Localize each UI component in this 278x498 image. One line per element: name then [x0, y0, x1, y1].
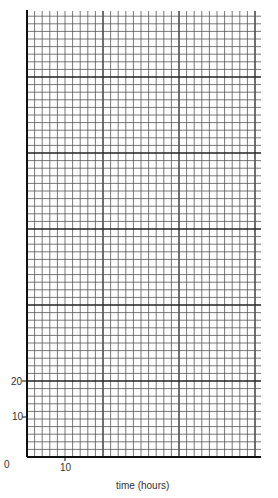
origin-label: 0 — [4, 459, 10, 470]
x-axis-title: time (hours) — [116, 480, 169, 491]
graph-paper-grid — [0, 0, 278, 498]
y-tick-label-10: 10 — [12, 411, 23, 422]
y-tick-label-20: 20 — [11, 376, 22, 387]
x-tick-label-10: 10 — [60, 462, 71, 473]
